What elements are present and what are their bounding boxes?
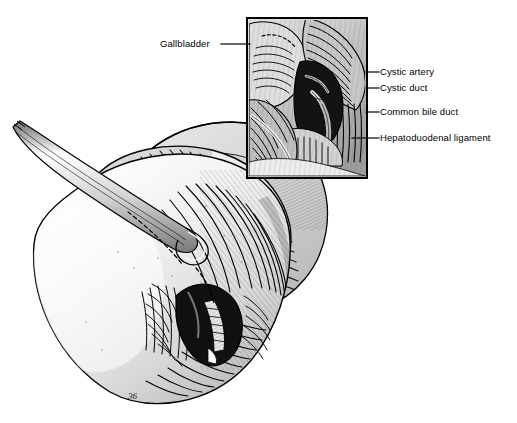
inset-magnified-view (247, 18, 367, 178)
label-cystic-artery: Cystic artery (380, 66, 434, 77)
label-gallbladder: Gallbladder (160, 38, 210, 49)
label-common-bile-duct: Common bile duct (380, 106, 458, 117)
label-hepatoduodenal-ligament: Hepatoduodenal ligament (380, 132, 491, 143)
artist-signature: 36 (127, 391, 138, 401)
label-cystic-duct: Cystic duct (380, 82, 428, 93)
gallbladder-body (28, 154, 300, 403)
anatomical-illustration: 36 (0, 0, 517, 423)
